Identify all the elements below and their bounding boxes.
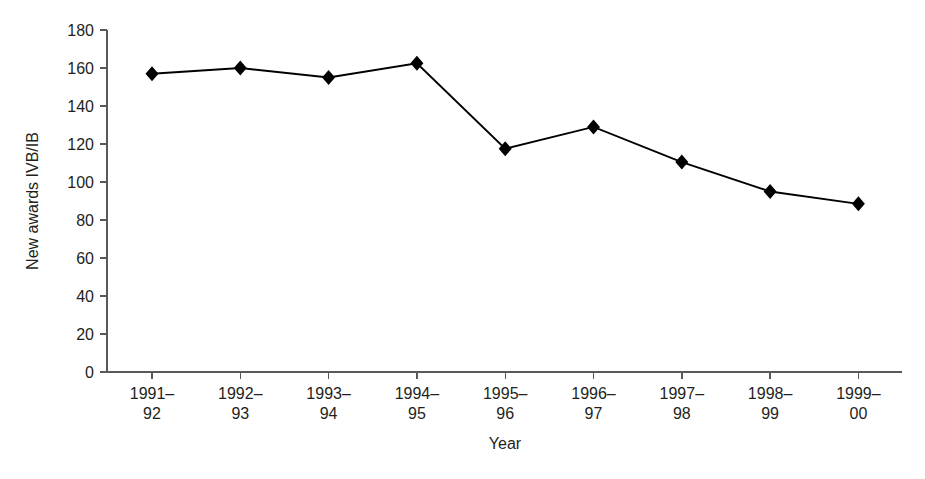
y-axis-ticks [100, 30, 107, 372]
data-point-marker [146, 66, 159, 81]
line-chart: 020406080100120140160180 1991–921992–931… [0, 0, 925, 479]
data-point-marker [322, 70, 335, 85]
y-tick-label: 120 [67, 136, 94, 153]
y-tick-label: 180 [67, 22, 94, 39]
y-tick-label: 140 [67, 98, 94, 115]
y-axis-title: New awards IVB/IB [24, 132, 41, 270]
x-tick-label: 1994–95 [395, 385, 440, 422]
x-tick-label: 1991–92 [130, 385, 175, 422]
y-tick-label: 20 [76, 326, 94, 343]
y-tick-label: 160 [67, 60, 94, 77]
data-point-marker [234, 61, 247, 76]
y-tick-label: 0 [85, 364, 94, 381]
data-point-marker [764, 184, 777, 199]
y-tick-label: 80 [76, 212, 94, 229]
x-tick-label: 1993–94 [306, 385, 351, 422]
x-tick-label: 1998–99 [748, 385, 793, 422]
chart-canvas: 020406080100120140160180 1991–921992–931… [0, 0, 925, 479]
x-tick-label: 1997–98 [660, 385, 705, 422]
data-point-marker [675, 155, 688, 170]
y-axis-tick-labels: 020406080100120140160180 [67, 22, 94, 381]
data-point-marker [852, 196, 865, 211]
x-axis-ticks [152, 372, 858, 379]
x-axis-tick-labels: 1991–921992–931993–941994–951995–961996–… [130, 385, 881, 422]
y-tick-label: 100 [67, 174, 94, 191]
x-axis-title: Year [489, 435, 522, 452]
x-tick-label: 1995–96 [483, 385, 528, 422]
y-tick-label: 40 [76, 288, 94, 305]
x-tick-label: 1999–00 [836, 385, 881, 422]
x-tick-label: 1992–93 [218, 385, 263, 422]
data-point-marker [587, 119, 600, 134]
y-tick-label: 60 [76, 250, 94, 267]
x-tick-label: 1996–97 [571, 385, 616, 422]
data-series-line [152, 63, 858, 204]
